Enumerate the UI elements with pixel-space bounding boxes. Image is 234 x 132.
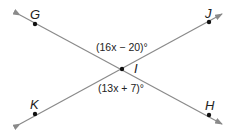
label-G: G xyxy=(30,7,40,22)
angle-bottom-expression: (13x + 7)° xyxy=(98,82,144,94)
point-H xyxy=(207,113,211,117)
diagram-canvas: G J K H I (16x − 20)° (13x + 7)° xyxy=(0,0,234,132)
label-I: I xyxy=(134,61,138,76)
label-K: K xyxy=(30,97,40,112)
label-J: J xyxy=(204,6,212,21)
label-H: H xyxy=(205,98,215,113)
angle-top-expression: (16x − 20)° xyxy=(96,41,148,53)
point-K xyxy=(33,112,37,116)
point-G xyxy=(33,22,37,26)
point-I xyxy=(120,67,124,71)
angle-diagram: G J K H I (16x − 20)° (13x + 7)° xyxy=(0,0,234,132)
